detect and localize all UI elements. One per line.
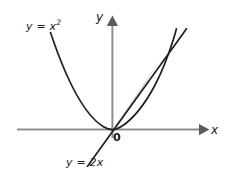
parabola-equation-label: y = x2 [26,19,61,32]
x-axis-label: x [211,124,218,136]
shaded-region [112,52,165,130]
graph-figure: y = x2 y = 2x y x 0 [0,0,230,180]
parabola-curve [51,29,177,130]
line-equation-label: y = 2x [66,157,103,168]
y-axis-label: y [96,11,103,23]
line-curve [88,29,187,166]
origin-label: 0 [113,132,121,143]
parabola-exponent: 2 [56,18,61,27]
